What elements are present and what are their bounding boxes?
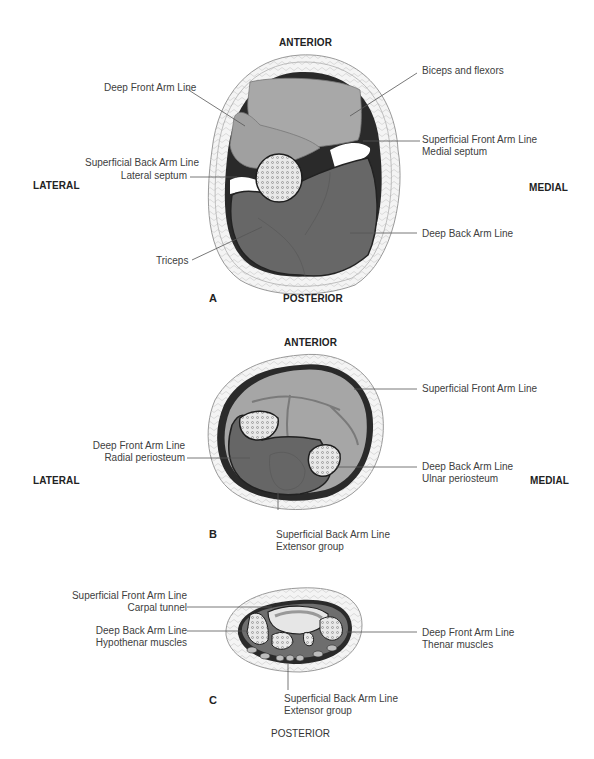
panel-a-deep-back-arm-line-label: Deep Back Arm Line xyxy=(422,228,513,240)
panel-a-medial-septum-label: Medial septum xyxy=(422,146,487,158)
panel-b-deep-back-arm-line-label: Deep Back Arm Line xyxy=(422,461,513,473)
panel-b-lateral-label: LATERAL xyxy=(33,475,80,486)
panel-a-lateral-septum-label: Lateral septum xyxy=(85,170,187,182)
wrist-cross-section xyxy=(226,588,362,672)
panel-a-biceps-label: Biceps and flexors xyxy=(422,65,504,77)
panel-c-hypothenar-muscles-label: Hypothenar muscles xyxy=(60,637,187,649)
panel-c-extensor-group-label: Extensor group xyxy=(284,705,352,717)
panel-a-posterior-label: POSTERIOR xyxy=(283,293,343,304)
panel-c-letter: C xyxy=(209,694,217,706)
panel-b-superficial-front-arm-line-label: Superficial Front Arm Line xyxy=(422,383,537,395)
panel-b-superficial-back-arm-line-label: Superficial Back Arm Line xyxy=(276,529,390,541)
panel-a-medial-label: MEDIAL xyxy=(529,182,568,193)
panel-c-thenar-muscles-label: Thenar muscles xyxy=(422,639,493,651)
panel-c-posterior-label: POSTERIOR xyxy=(271,728,330,739)
panel-a-deep-front-arm-line-label: Deep Front Arm Line xyxy=(104,82,196,94)
panel-c-superficial-back-arm-line-label: Superficial Back Arm Line xyxy=(284,693,398,705)
panel-b-radial-periosteum-label: Radial periosteum xyxy=(85,452,185,464)
panel-a-lateral-label: LATERAL xyxy=(33,180,80,191)
panel-a-superficial-back-arm-line-label: Superficial Back Arm Line xyxy=(85,157,187,169)
forearm-cross-section xyxy=(208,354,383,509)
panel-c-deep-front-arm-line-label: Deep Front Arm Line xyxy=(422,627,514,639)
panel-a-triceps-label: Triceps xyxy=(156,255,188,267)
panel-a-superficial-front-arm-line-label: Superficial Front Arm Line xyxy=(422,134,537,146)
panel-b-deep-front-arm-line-label: Deep Front Arm Line xyxy=(85,440,185,452)
panel-b-anterior-label: ANTERIOR xyxy=(284,337,337,348)
panel-a-letter: A xyxy=(209,292,217,304)
panel-b-ulnar-periosteum-label: Ulnar periosteum xyxy=(422,473,498,485)
panel-c-superficial-front-arm-line-label: Superficial Front Arm Line xyxy=(60,590,187,602)
panel-c-carpal-tunnel-label: Carpal tunnel xyxy=(60,602,187,614)
upper-arm-cross-section xyxy=(208,55,400,294)
panel-b-letter: B xyxy=(209,528,217,540)
panel-c-deep-back-arm-line-label: Deep Back Arm Line xyxy=(60,625,187,637)
panel-b-extensor-group-label: Extensor group xyxy=(276,541,344,553)
panel-b-medial-label: MEDIAL xyxy=(530,475,569,486)
panel-a-anterior-label: ANTERIOR xyxy=(279,37,332,48)
